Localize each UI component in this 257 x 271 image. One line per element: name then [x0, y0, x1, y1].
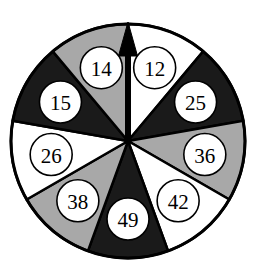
sector-label-text-25: 25 [185, 91, 206, 115]
sector-label-12: 12 [134, 47, 176, 89]
sector-label-26: 26 [30, 134, 72, 176]
sector-label-text-36: 36 [194, 144, 215, 168]
sector-label-text-26: 26 [41, 144, 62, 168]
sector-label-text-38: 38 [67, 190, 88, 214]
sector-label-36: 36 [184, 134, 226, 176]
sector-label-49: 49 [107, 198, 149, 240]
sector-label-42: 42 [157, 180, 199, 222]
sector-label-text-12: 12 [144, 57, 165, 81]
sector-label-text-14: 14 [91, 57, 113, 81]
sector-label-38: 38 [57, 180, 99, 222]
spinner-figure: 122536424938261514 [0, 0, 257, 271]
sector-label-text-42: 42 [168, 190, 189, 214]
sector-label-15: 15 [39, 81, 81, 123]
sector-label-text-15: 15 [50, 91, 71, 115]
sector-label-25: 25 [175, 81, 217, 123]
sector-label-text-49: 49 [118, 208, 139, 232]
sector-label-14: 14 [80, 47, 122, 89]
spinner-diagram: 122536424938261514 [0, 0, 257, 271]
